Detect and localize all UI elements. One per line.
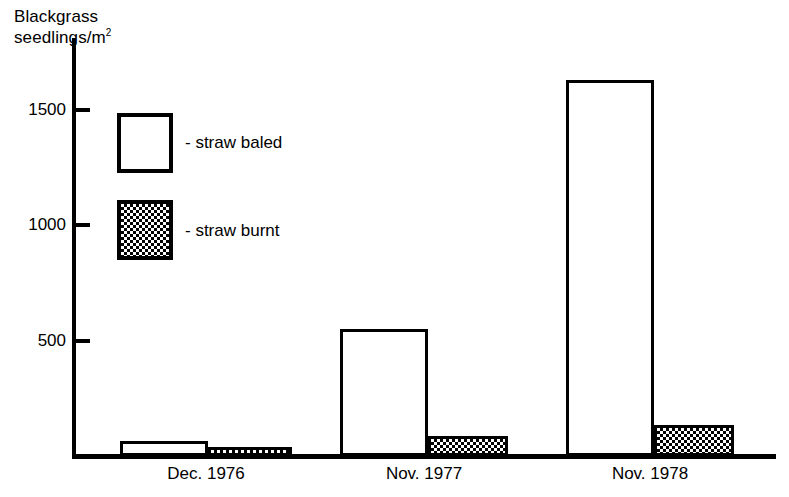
bar-1977-straw-baled <box>340 329 428 456</box>
legend-label-straw-baled: - straw baled <box>185 133 282 153</box>
bar-1978-straw-baled <box>566 80 654 456</box>
bar-chart: Blackgrassseedlings/m2 1500 1000 500 Dec… <box>0 0 789 497</box>
bar-1978-straw-burnt <box>654 425 734 456</box>
legend-item-straw-burnt: - straw burnt <box>117 200 377 262</box>
x-tick-label-1977: Nov. 1977 <box>386 464 462 484</box>
legend-item-straw-baled: - straw baled <box>117 113 377 173</box>
bar-1976-straw-baled <box>120 441 208 456</box>
bar-1977-straw-burnt <box>428 436 508 456</box>
bar-1976-straw-burnt <box>208 447 292 456</box>
legend-swatch-checkered <box>117 200 173 260</box>
x-tick-label-1976: Dec. 1976 <box>167 464 245 484</box>
x-tick-label-1978: Nov. 1978 <box>612 464 688 484</box>
legend-swatch-open <box>117 113 173 173</box>
legend-label-straw-burnt: - straw burnt <box>185 221 279 241</box>
